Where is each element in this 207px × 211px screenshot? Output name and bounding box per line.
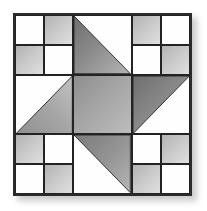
quilt-block-grid bbox=[15, 15, 190, 194]
four-patch-bottom-right bbox=[132, 134, 190, 194]
triangle-upper-left-icon bbox=[133, 76, 189, 134]
quilt-unit-middle-left bbox=[15, 75, 73, 135]
triangle-upper-right-icon bbox=[74, 135, 130, 193]
quilt-unit-bottom-left bbox=[15, 134, 73, 194]
patch-white bbox=[44, 45, 73, 75]
quilt-unit-bottom-center bbox=[73, 134, 131, 194]
canvas bbox=[0, 0, 207, 211]
patch-gray bbox=[15, 45, 44, 75]
triangle-lower-right-icon bbox=[16, 76, 72, 134]
patch-gray bbox=[44, 15, 73, 45]
patch-white bbox=[15, 15, 44, 45]
quilt-block bbox=[13, 13, 192, 196]
patch-white bbox=[44, 134, 73, 164]
four-patch-top-left bbox=[15, 15, 73, 75]
quilt-unit-top-left bbox=[15, 15, 73, 75]
patch-gray bbox=[161, 134, 190, 164]
blade-triangle-bottom bbox=[73, 134, 131, 194]
triangle-lower-left-icon bbox=[74, 16, 130, 74]
patch-gray bbox=[44, 164, 73, 194]
patch-white bbox=[132, 134, 161, 164]
patch-white bbox=[161, 164, 190, 194]
quilt-unit-top-right bbox=[132, 15, 190, 75]
blade-triangle-top bbox=[73, 15, 131, 75]
quilt-unit-bottom-right bbox=[132, 134, 190, 194]
quilt-unit-top-center bbox=[73, 15, 131, 75]
blade-triangle-right bbox=[132, 75, 190, 135]
center-square bbox=[73, 75, 131, 135]
patch-gray bbox=[15, 134, 44, 164]
four-patch-top-right bbox=[132, 15, 190, 75]
quilt-unit-middle-right bbox=[132, 75, 190, 135]
patch-gray bbox=[132, 15, 161, 45]
four-patch-bottom-left bbox=[15, 134, 73, 194]
patch-gray bbox=[161, 45, 190, 75]
patch-white bbox=[15, 164, 44, 194]
quilt-unit-center bbox=[73, 75, 131, 135]
patch-white bbox=[161, 15, 190, 45]
blade-triangle-left bbox=[15, 75, 73, 135]
patch-white bbox=[132, 45, 161, 75]
patch-gray bbox=[132, 164, 161, 194]
